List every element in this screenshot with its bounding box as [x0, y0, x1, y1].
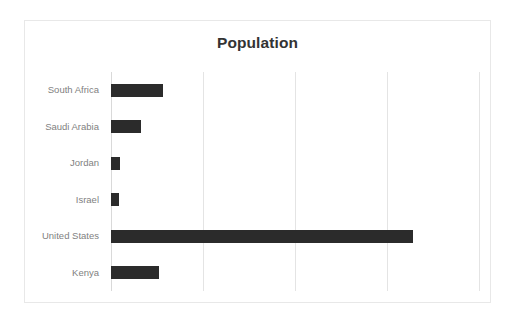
category-label: United States	[42, 230, 99, 241]
bar[interactable]	[111, 193, 119, 206]
bar[interactable]	[111, 84, 163, 97]
category-label: Saudi Arabia	[45, 121, 99, 132]
gridline	[479, 72, 480, 291]
bar[interactable]	[111, 157, 120, 170]
value-axis-line	[111, 72, 112, 291]
category-label: Jordan	[70, 157, 99, 168]
category-label: South Africa	[48, 84, 99, 95]
gridline	[295, 72, 296, 291]
bar[interactable]	[111, 230, 413, 243]
gridline	[387, 72, 388, 291]
chart-title: Population	[25, 34, 490, 52]
plot-area	[111, 72, 479, 291]
plot-wrapper: South AfricaSaudi ArabiaJordanIsraelUnit…	[25, 72, 492, 291]
bar[interactable]	[111, 120, 141, 133]
category-label: Kenya	[72, 267, 99, 278]
category-label: Israel	[76, 194, 99, 205]
bar[interactable]	[111, 266, 159, 279]
category-axis-labels: South AfricaSaudi ArabiaJordanIsraelUnit…	[25, 72, 105, 291]
gridline	[203, 72, 204, 291]
chart-container: Population South AfricaSaudi ArabiaJorda…	[24, 20, 491, 303]
